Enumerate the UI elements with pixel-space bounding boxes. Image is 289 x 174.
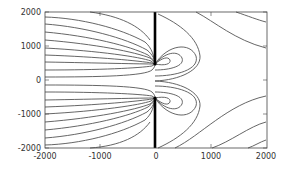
y-tick-label: 2000: [21, 8, 41, 17]
contour-chart: 2000 1000 0 -1000 -2000 -2000 -1000 0 10…: [0, 0, 289, 174]
x-tick-label: 1000: [201, 152, 221, 161]
y-tick-label: -1000: [18, 110, 41, 119]
source-point-lower: [153, 96, 156, 99]
source-point-upper: [153, 62, 156, 65]
x-tick-label: -1000: [88, 152, 111, 161]
y-tick-label: 1000: [21, 42, 41, 51]
x-tick-label: 2000: [256, 152, 276, 161]
y-tick-label: 0: [36, 76, 41, 85]
x-tick-label: -2000: [33, 152, 56, 161]
x-tick-label: 0: [153, 152, 158, 161]
